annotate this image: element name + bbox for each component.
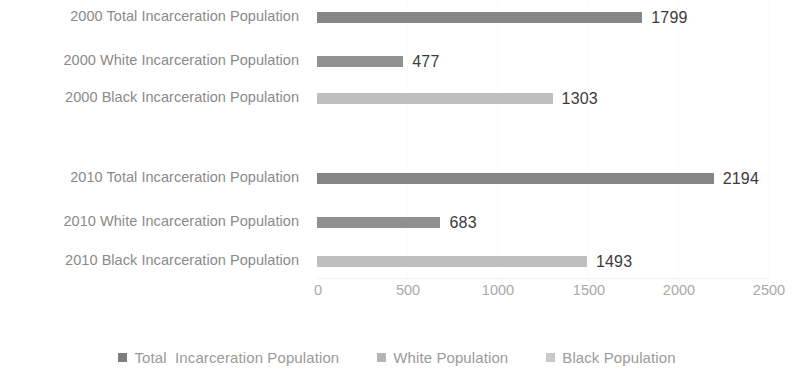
x-tick-label: 2500 <box>753 283 785 298</box>
gridlines <box>317 0 769 278</box>
legend-label: White Population <box>393 350 508 365</box>
x-tick-label: 1000 <box>482 283 514 298</box>
bar-2000-total[interactable] <box>317 12 642 23</box>
x-axis-ticks: 0 500 1000 1500 2000 2500 <box>317 283 777 305</box>
bar-value-label: 1493 <box>596 254 632 270</box>
category-label: 2010 Total Incarceration Population <box>0 170 299 185</box>
gridline <box>768 0 769 278</box>
bar-2010-black[interactable] <box>317 256 587 267</box>
category-label: 2000 Black Incarceration Population <box>0 90 299 105</box>
legend-item-total[interactable]: Total Incarceration Population <box>118 350 339 365</box>
bar-2010-white[interactable] <box>317 217 440 228</box>
bar-value-label: 1303 <box>562 91 598 107</box>
bar-2010-total[interactable] <box>317 173 714 184</box>
x-axis-line <box>317 278 769 279</box>
category-label: 2010 White Incarceration Population <box>0 214 299 229</box>
legend-swatch-icon <box>118 353 127 362</box>
bar-chart: 2000 Total Incarceration Population 2000… <box>0 0 794 372</box>
gridline <box>678 0 679 278</box>
plot-area: 1799 477 1303 2194 683 1493 <box>317 0 769 282</box>
category-axis-labels: 2000 Total Incarceration Population 2000… <box>0 0 308 282</box>
category-label: 2000 White Incarceration Population <box>0 53 299 68</box>
legend-item-white[interactable]: White Population <box>377 350 508 365</box>
bar-2000-white[interactable] <box>317 56 403 67</box>
gridline <box>497 0 498 278</box>
bar-value-label: 2194 <box>723 171 759 187</box>
bar-value-label: 683 <box>449 215 476 231</box>
legend-label: Black Population <box>562 350 675 365</box>
gridline <box>407 0 408 278</box>
x-tick-label: 1500 <box>573 283 605 298</box>
x-tick-label: 0 <box>314 283 322 298</box>
bar-2000-black[interactable] <box>317 93 553 104</box>
legend-swatch-icon <box>377 353 386 362</box>
category-label: 2000 Total Incarceration Population <box>0 9 299 24</box>
category-label: 2010 Black Incarceration Population <box>0 253 299 268</box>
x-tick-label: 500 <box>396 283 420 298</box>
bar-value-label: 1799 <box>651 10 687 26</box>
legend-swatch-icon <box>546 353 555 362</box>
legend-item-black[interactable]: Black Population <box>546 350 675 365</box>
bar-value-label: 477 <box>412 54 439 70</box>
x-tick-label: 2000 <box>663 283 695 298</box>
legend-label: Total Incarceration Population <box>134 350 339 365</box>
chart-legend: Total Incarceration Population White Pop… <box>0 344 794 370</box>
gridline <box>588 0 589 278</box>
